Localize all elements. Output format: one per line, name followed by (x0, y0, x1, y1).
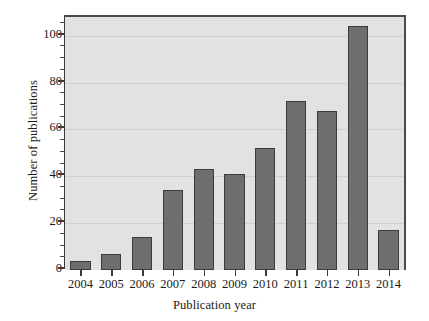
x-tick-label: 2005 (99, 278, 124, 291)
x-tick-label: 2010 (253, 278, 278, 291)
x-tick-mark (358, 269, 360, 276)
y-minor-tick-mark (60, 92, 65, 93)
y-minor-tick-mark (60, 186, 65, 187)
bar (224, 174, 244, 270)
bar (255, 148, 275, 270)
y-tick-label: 80 (4, 74, 62, 87)
y-minor-tick-mark (60, 45, 65, 46)
x-tick-label: 2009 (222, 278, 247, 291)
bar (194, 169, 214, 270)
x-tick-mark (327, 269, 329, 276)
x-tick-mark (142, 269, 144, 276)
x-tick-mark (173, 269, 175, 276)
y-minor-tick-mark (60, 104, 65, 105)
y-tick-label: 40 (4, 168, 62, 181)
y-minor-tick-mark (60, 233, 65, 234)
bar-chart-figure: Number of publications 020406080100 2004… (0, 0, 429, 321)
y-tick-mark (58, 173, 65, 175)
x-tick-mark (265, 269, 267, 276)
x-tick-label: 2013 (345, 278, 370, 291)
y-tick-mark (58, 80, 65, 82)
y-axis-tick-labels: 020406080100 (0, 0, 62, 321)
x-axis-tick-labels: 2004200520062007200820092010201120122013… (0, 278, 429, 294)
x-tick-label: 2012 (314, 278, 339, 291)
x-tick-label: 2006 (130, 278, 155, 291)
x-tick-mark (389, 269, 391, 276)
bar (348, 26, 368, 270)
y-tick-mark (58, 267, 65, 269)
y-tick-mark (58, 126, 65, 128)
y-minor-tick-mark (60, 163, 65, 164)
y-tick-label: 0 (4, 262, 62, 275)
y-tick-label: 20 (4, 215, 62, 228)
x-tick-label: 2007 (160, 278, 185, 291)
y-minor-tick-mark (60, 69, 65, 70)
bar (378, 230, 398, 270)
bar (101, 254, 121, 270)
bar (317, 111, 337, 270)
x-tick-mark (80, 269, 82, 276)
x-tick-label: 2004 (68, 278, 93, 291)
plot-area (65, 15, 406, 270)
x-tick-label: 2011 (284, 278, 309, 291)
y-minor-tick-mark (60, 209, 65, 210)
bar (132, 237, 152, 270)
y-minor-tick-mark (60, 22, 65, 23)
y-tick-mark (58, 220, 65, 222)
x-tick-label: 2014 (376, 278, 401, 291)
bar (163, 190, 183, 270)
y-minor-tick-mark (60, 245, 65, 246)
x-axis-title: Publication year (0, 298, 429, 313)
y-minor-tick-mark (60, 139, 65, 140)
x-tick-mark (204, 269, 206, 276)
y-tick-label: 60 (4, 121, 62, 134)
y-tick-mark (58, 33, 65, 35)
x-tick-label: 2008 (191, 278, 216, 291)
y-minor-tick-mark (60, 198, 65, 199)
x-tick-mark (235, 269, 237, 276)
bar (286, 101, 306, 270)
x-tick-mark (296, 269, 298, 276)
y-minor-tick-mark (60, 57, 65, 58)
y-minor-tick-mark (60, 116, 65, 117)
bars-group (65, 17, 404, 270)
y-minor-tick-mark (60, 151, 65, 152)
y-minor-tick-mark (60, 256, 65, 257)
x-tick-mark (111, 269, 113, 276)
y-tick-label: 100 (4, 27, 62, 40)
